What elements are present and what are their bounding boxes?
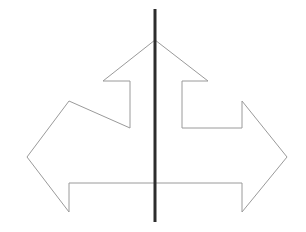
- figure-canvas: Three-way arrow outline with vertical ax…: [0, 0, 306, 232]
- canvas-background: [0, 0, 306, 232]
